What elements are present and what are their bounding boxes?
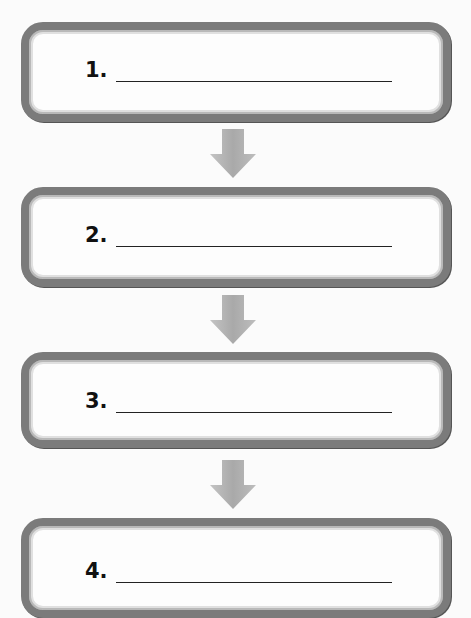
step-number-4: 4. bbox=[85, 559, 108, 583]
down-arrow-icon bbox=[209, 460, 257, 510]
step-answer-line-1[interactable] bbox=[116, 81, 392, 82]
step-number-3: 3. bbox=[85, 389, 108, 413]
step-box-3: 3. bbox=[21, 352, 451, 448]
step-box-2: 2. bbox=[21, 187, 451, 287]
down-arrow-icon bbox=[209, 129, 257, 179]
step-number-2: 2. bbox=[85, 223, 108, 247]
step-box-1: 1. bbox=[21, 22, 451, 122]
step-box-4: 4. bbox=[21, 518, 451, 618]
step-answer-line-4[interactable] bbox=[116, 582, 392, 583]
down-arrow-icon bbox=[209, 295, 257, 345]
step-answer-line-3[interactable] bbox=[116, 412, 392, 413]
step-answer-line-2[interactable] bbox=[116, 246, 392, 247]
step-number-1: 1. bbox=[85, 58, 108, 82]
